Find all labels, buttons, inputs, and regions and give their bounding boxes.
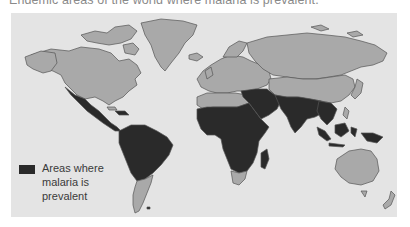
- world-map-panel: Areas where malaria is prevalent: [11, 13, 397, 217]
- map-legend: Areas where malaria is prevalent: [19, 161, 104, 203]
- sulawesi: [351, 127, 357, 137]
- legend-line-3: prevalent: [42, 189, 104, 203]
- madagascar: [261, 149, 269, 169]
- papua-new-guinea: [361, 133, 383, 143]
- southeast-asia: [317, 101, 337, 125]
- arctic-islands: [81, 25, 137, 45]
- borneo: [335, 123, 349, 137]
- legend-swatch-malaria: [19, 165, 35, 174]
- southern-africa: [231, 171, 247, 185]
- australia: [335, 149, 379, 185]
- greenland: [141, 19, 197, 71]
- russia: [247, 33, 387, 79]
- scandinavia: [223, 41, 247, 57]
- new-zealand: [383, 191, 395, 209]
- sumatra: [317, 127, 331, 141]
- map-caption: Endemic areas of the world where malaria…: [9, 0, 319, 7]
- java: [329, 143, 345, 147]
- south-america-malaria: [119, 125, 173, 181]
- legend-label: Areas where malaria is prevalent: [42, 161, 104, 203]
- iceland: [189, 53, 203, 61]
- alaska: [25, 51, 57, 73]
- legend-line-2: malaria is: [42, 175, 104, 189]
- philippines: [343, 107, 349, 119]
- legend-line-1: Areas where: [42, 161, 104, 175]
